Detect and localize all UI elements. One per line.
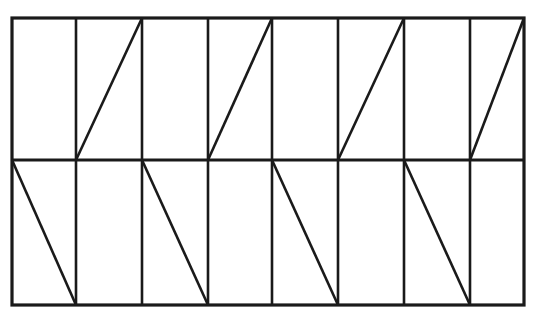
figure-canvas	[0, 0, 534, 318]
geometry-figure	[0, 0, 534, 318]
